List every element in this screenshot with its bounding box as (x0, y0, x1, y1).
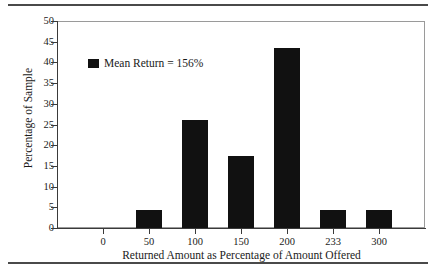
legend-label: Mean Return = 156% (104, 57, 203, 69)
y-tick-mark (51, 21, 57, 22)
x-tick-mark (241, 229, 242, 234)
x-tick-label: 50 (144, 235, 155, 249)
bar (228, 156, 254, 228)
x-tick-label: 233 (325, 235, 341, 249)
legend: Mean Return = 156% (88, 57, 203, 69)
legend-marker-icon (88, 59, 99, 68)
bar (274, 48, 300, 228)
x-tick-label: 100 (187, 235, 203, 249)
y-axis-label: Percentage of Sample (22, 33, 34, 203)
x-tick-mark (195, 229, 196, 234)
bar (136, 210, 162, 228)
x-tick-label: 0 (100, 235, 105, 249)
y-tick-mark (51, 207, 57, 208)
x-tick-mark (103, 229, 104, 234)
y-tick-mark (51, 187, 57, 188)
y-tick-mark (51, 42, 57, 43)
x-tick-mark (333, 229, 334, 234)
bar (182, 120, 208, 228)
bar (366, 210, 392, 228)
y-tick-mark (51, 125, 57, 126)
y-tick-mark (51, 166, 57, 167)
x-tick-mark (287, 229, 288, 234)
x-tick-label: 200 (279, 235, 295, 249)
y-tick-mark (51, 145, 57, 146)
y-tick-mark (51, 104, 57, 105)
y-tick-mark (51, 228, 57, 229)
bottom-horizontal-rule (8, 262, 428, 264)
x-axis-label: Returned Amount as Percentage of Amount … (57, 249, 426, 261)
x-tick-label: 300 (371, 235, 387, 249)
y-tick-mark (51, 83, 57, 84)
y-axis-line (57, 21, 58, 229)
top-horizontal-rule (8, 4, 428, 6)
y-tick-mark (51, 62, 57, 63)
x-tick-label: 150 (233, 235, 249, 249)
x-tick-mark (379, 229, 380, 234)
bar (320, 210, 346, 228)
x-tick-mark (149, 229, 150, 234)
figure: 05101520253035404550 050100150200233300 … (0, 0, 436, 277)
